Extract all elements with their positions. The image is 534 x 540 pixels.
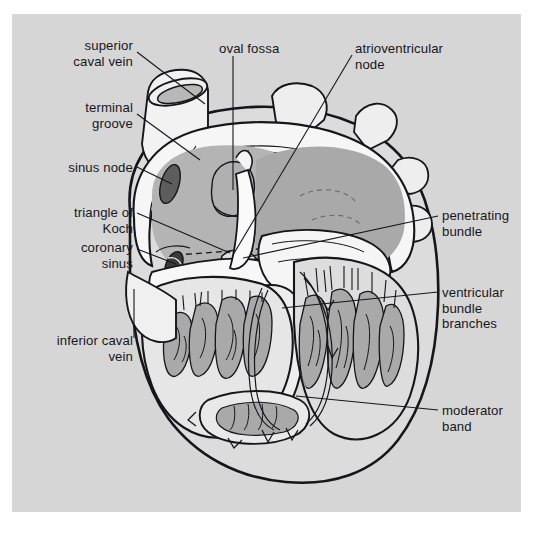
label-coronary-sinus: coronary sinus [28,240,133,271]
moderator-band-trabeculae [216,402,298,435]
label-atrioventricular-node: atrioventricular node [355,41,485,72]
anatomy-figure: superior caval veinterminal groovesinus … [0,0,534,540]
label-sinus-node: sinus node [18,160,133,176]
label-inferior-caval-vein: inferior caval vein [18,333,133,364]
label-oval-fossa: oval fossa [219,41,315,57]
label-terminal-groove: terminal groove [28,100,133,131]
label-penetrating-bundle: penetrating bundle [442,208,534,239]
label-ventricular-bundle-branches: ventricular bundle branches [442,285,534,332]
label-triangle-of-koch: triangle of Koch [28,205,133,236]
label-moderator-band: moderator band [442,403,534,434]
label-superior-caval-vein: superior caval vein [28,38,133,69]
